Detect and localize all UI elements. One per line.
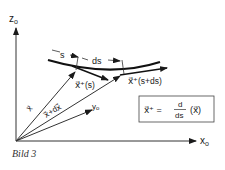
label-ds: ds (92, 56, 102, 66)
formula-lhs: x⃗⁺ = (144, 105, 162, 115)
formula-denominator: ds (175, 111, 183, 120)
formula-box: x⃗⁺ = d ds (x⃗) (139, 96, 214, 122)
z-axis-label: zo (9, 13, 18, 25)
space-curve-diagram: zo xo s ds x⃗⁺(s) x⃗⁺(s+ds) x⃗ x⃗+dx⃗ yo… (0, 0, 225, 170)
label-vec-x-dx: x⃗+dx⃗ (42, 102, 63, 120)
label-s: s (60, 50, 65, 60)
label-tangent-s: x⃗⁺(s) (75, 80, 95, 90)
space-curve (48, 60, 160, 70)
label-tangent-s-ds: x⃗⁺(s+ds) (128, 76, 162, 86)
y-axis-label: yo (92, 102, 100, 111)
formula-numerator: d (178, 100, 182, 109)
figure-caption: Bild 3 (12, 148, 36, 159)
formula-argument: (x⃗) (190, 105, 201, 115)
label-vec-x: x⃗ (25, 104, 35, 114)
x-axis-label: xo (200, 135, 209, 147)
